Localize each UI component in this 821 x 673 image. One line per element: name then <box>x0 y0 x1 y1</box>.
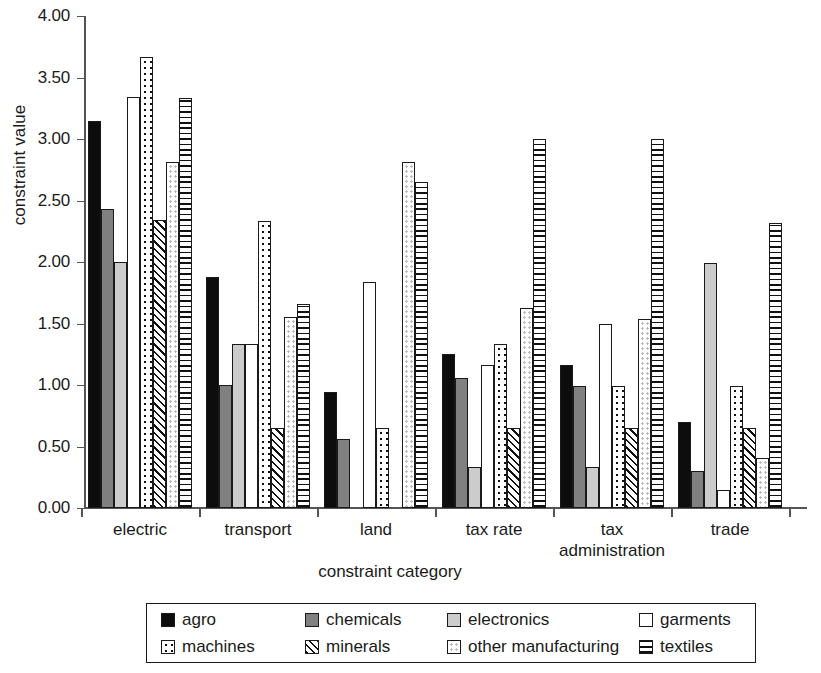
bar <box>153 220 166 508</box>
bar <box>704 263 717 508</box>
legend-item: other manufacturing <box>447 633 619 661</box>
bar <box>337 439 350 508</box>
bar <box>114 262 127 508</box>
bar <box>468 467 481 508</box>
y-axis-tick-label: 2.00 <box>0 253 70 270</box>
legend-swatch-icon <box>305 640 319 654</box>
bar <box>560 365 573 508</box>
legend-label: electronics <box>468 610 549 630</box>
bar-group <box>678 16 782 508</box>
x-axis-tick-label: trade <box>640 519 820 540</box>
legend-label: other manufacturing <box>468 637 619 657</box>
bar <box>166 162 179 508</box>
x-axis-tick-mark <box>789 508 791 517</box>
x-axis-tick-mark <box>671 508 673 517</box>
bar-group <box>206 16 310 508</box>
y-axis-tick-label: 0.50 <box>0 438 70 455</box>
legend-item: electronics <box>447 606 549 634</box>
bar <box>507 428 520 508</box>
bar <box>88 121 101 508</box>
legend-swatch-icon <box>305 613 319 627</box>
bar-group <box>442 16 546 508</box>
y-axis-tick-label: 0.00 <box>0 499 70 516</box>
bar <box>586 467 599 508</box>
y-axis-tick-label: 3.50 <box>0 69 70 86</box>
bar <box>599 324 612 509</box>
bar <box>363 282 376 508</box>
y-axis-tick-label: 3.00 <box>0 130 70 147</box>
legend-item: chemicals <box>305 606 402 634</box>
bar <box>533 139 546 508</box>
y-axis-tick-label: 2.50 <box>0 192 70 209</box>
x-axis-tick-mark <box>317 508 319 517</box>
bar <box>612 386 625 508</box>
x-axis-title: constraint category <box>0 562 780 582</box>
legend: agrochemicalselectronicsgarments machine… <box>146 603 756 663</box>
bar <box>481 365 494 508</box>
x-axis-tick-mark <box>435 508 437 517</box>
legend-item: garments <box>639 606 731 634</box>
bar <box>651 139 664 508</box>
bar <box>376 428 389 508</box>
legend-item: minerals <box>305 633 390 661</box>
bar <box>271 428 284 508</box>
x-axis-tick-mark <box>199 508 201 517</box>
x-axis-tick-label-line: administration <box>522 540 702 561</box>
bar <box>494 344 507 508</box>
bar <box>678 422 691 508</box>
legend-row-top: agrochemicalselectronicsgarments <box>147 606 755 634</box>
plot-area <box>86 16 807 508</box>
bar <box>245 344 258 508</box>
bar <box>324 392 337 508</box>
bar-group <box>88 16 192 508</box>
legend-label: textiles <box>660 637 713 657</box>
y-axis-tick-label: 1.50 <box>0 315 70 332</box>
x-axis-tick-label-line: trade <box>640 519 820 540</box>
bar <box>415 182 428 508</box>
legend-swatch-icon <box>161 613 175 627</box>
bar <box>717 490 730 508</box>
bar <box>442 354 455 508</box>
legend-item: machines <box>161 633 255 661</box>
bar <box>520 308 533 508</box>
x-axis-tick-mark <box>553 508 555 517</box>
x-axis-tick-mark <box>81 508 83 517</box>
legend-label: machines <box>182 637 255 657</box>
bar <box>140 57 153 508</box>
legend-swatch-icon <box>639 613 653 627</box>
bar <box>756 458 769 508</box>
bar-group <box>560 16 664 508</box>
bar <box>232 344 245 508</box>
y-axis-tick-label: 4.00 <box>0 7 70 24</box>
legend-swatch-icon <box>161 640 175 654</box>
legend-item: agro <box>161 606 216 634</box>
bar <box>769 223 782 508</box>
bar <box>284 317 297 508</box>
bar <box>625 428 638 508</box>
legend-swatch-icon <box>447 640 461 654</box>
bar <box>573 386 586 508</box>
legend-item: textiles <box>639 633 713 661</box>
bar <box>691 471 704 508</box>
bar <box>206 277 219 508</box>
bar-group <box>324 16 428 508</box>
bar <box>101 209 114 508</box>
bar-chart: constraint value 0.000.501.001.502.002.5… <box>0 0 821 673</box>
bar <box>455 378 468 508</box>
legend-label: agro <box>182 610 216 630</box>
legend-label: chemicals <box>326 610 402 630</box>
bar <box>297 304 310 508</box>
legend-label: garments <box>660 610 731 630</box>
y-axis-tick-label: 1.00 <box>0 376 70 393</box>
bar <box>402 162 415 508</box>
bar <box>638 319 651 508</box>
legend-swatch-icon <box>447 613 461 627</box>
y-axis-ticks: 0.000.501.001.502.002.503.003.504.00 <box>0 0 84 520</box>
bar <box>258 221 271 508</box>
bar <box>730 386 743 508</box>
bar <box>179 98 192 508</box>
legend-label: minerals <box>326 637 390 657</box>
bar <box>219 385 232 508</box>
bar <box>743 428 756 508</box>
legend-swatch-icon <box>639 640 653 654</box>
